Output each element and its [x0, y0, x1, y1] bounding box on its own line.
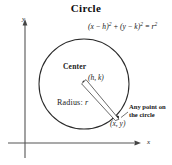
- center-coordinates-label: (h, k): [88, 74, 104, 82]
- x-axis-arrowhead: [135, 141, 142, 146]
- center-label: Center: [63, 63, 86, 71]
- radius-label-value: r: [85, 98, 88, 107]
- any-point-on-circle-note: Any point on the circle: [129, 103, 171, 119]
- radius-label: Radius: r: [57, 99, 88, 107]
- point-coordinates-label: (x, y): [110, 120, 125, 128]
- y-axis-label: y: [22, 16, 25, 23]
- x-axis-label: x: [147, 139, 150, 146]
- equation-exponent-3: 2: [154, 21, 157, 27]
- radius-label-text: Radius:: [57, 98, 85, 107]
- any-point-leader-line: [121, 112, 128, 118]
- equation-plus: +: [112, 22, 120, 31]
- circle-diagram-figure: Circle (x − h)2 + (y − k)2 = r2 Center (…: [0, 0, 172, 165]
- circle-equation: (x − h)2 + (y − k)2 = r2: [88, 23, 157, 31]
- page-title: Circle: [0, 3, 172, 14]
